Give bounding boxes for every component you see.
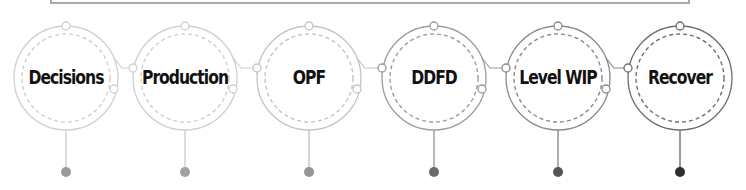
step-dot [429,167,439,177]
step-dot [61,167,71,177]
node-top [676,22,684,30]
node-top [62,22,70,30]
node-left [253,64,261,72]
step-label-decisions: Decisions [21,62,111,92]
node-right [229,85,237,93]
step-label-production: Production [140,62,230,92]
step-label-level-wip: Level WIP [513,62,603,92]
node-right [478,85,486,93]
node-right [110,85,118,93]
node-left [502,64,510,72]
node-top [554,22,562,30]
node-top [430,22,438,30]
step-dot [553,167,563,177]
step-label-ddfd: DDFD [389,62,479,92]
step-dot [180,167,190,177]
step-label-opf: OPF [264,62,354,92]
process-diagram [0,0,746,190]
node-top [305,22,313,30]
step-label-recover: Recover [635,62,725,92]
step-dot [675,167,685,177]
node-left [129,64,137,72]
node-right [353,85,361,93]
node-left [378,64,386,72]
node-right [602,85,610,93]
node-top [181,22,189,30]
step-dot [304,167,314,177]
node-left [624,64,632,72]
